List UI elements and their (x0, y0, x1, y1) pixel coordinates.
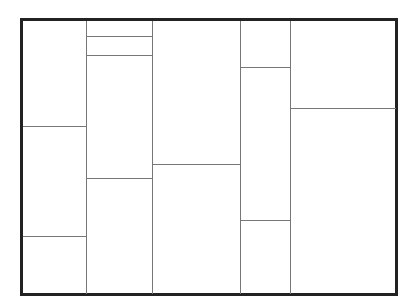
diagram-cell (240, 220, 291, 294)
diagram-cell (86, 178, 153, 294)
diagram-cell (23, 21, 87, 127)
diagram-cell (290, 21, 396, 109)
diagram-cell (23, 236, 87, 294)
diagram-cell (152, 164, 241, 294)
diagram-cell (86, 55, 153, 179)
diagram-cell (86, 21, 153, 37)
diagram-cell (86, 36, 153, 56)
diagram-cell (240, 21, 291, 68)
diagram-cell (152, 21, 241, 165)
diagram-cell (240, 67, 291, 221)
diagram-cell (290, 108, 396, 294)
diagram-cell (23, 126, 87, 237)
